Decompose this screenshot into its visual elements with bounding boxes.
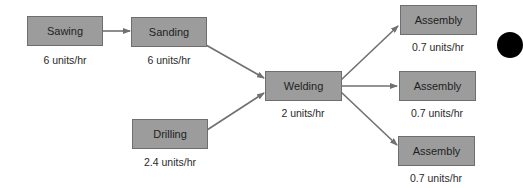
node-sawing-label: Sawing [47,25,83,37]
node-assembly-2: Assembly [399,71,476,101]
node-assembly-2-rate: 0.7 units/hr [387,107,487,119]
circle-marker-icon [497,32,523,58]
node-drilling: Drilling [132,119,208,149]
node-assembly-1-rate: 0.7 units/hr [388,41,488,53]
node-sanding: Sanding [131,17,207,47]
node-assembly-1-label: Assembly [415,14,463,26]
node-drilling-rate: 2.4 units/hr [120,156,220,168]
node-assembly-3-label: Assembly [413,145,461,157]
arrow-welding-to-assembly1 [341,26,398,80]
node-drilling-label: Drilling [153,128,187,140]
node-assembly-2-label: Assembly [414,80,462,92]
node-sawing: Sawing [27,16,103,46]
node-assembly-1: Assembly [400,5,477,35]
node-sanding-label: Sanding [149,26,189,38]
node-sawing-rate: 6 units/hr [15,54,115,66]
node-assembly-3-rate: 0.7 units/hr [386,172,486,184]
node-sanding-rate: 6 units/hr [119,54,219,66]
node-welding-rate: 2 units/hr [253,107,353,119]
node-welding: Welding [265,71,342,101]
node-welding-label: Welding [284,80,324,92]
node-assembly-3: Assembly [398,136,475,166]
